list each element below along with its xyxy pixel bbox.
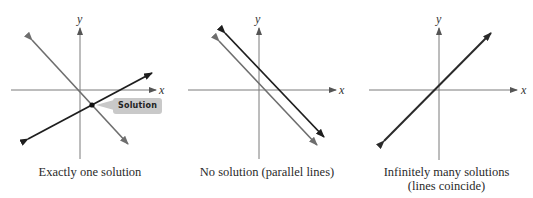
y-axis-label: y <box>255 13 260 25</box>
x-axis-label: x <box>159 84 164 96</box>
x-axis-label: x <box>521 84 526 96</box>
line-2-gray <box>219 41 317 145</box>
y-axis-label: y <box>436 13 441 25</box>
caption-infinite-solutions: Infinitely many solutions (lines coincid… <box>360 165 533 193</box>
caption-no-solution: No solution (parallel lines) <box>177 165 357 179</box>
caption-line: No solution (parallel lines) <box>177 165 357 179</box>
caption-one-solution: Exactly one solution <box>0 165 180 179</box>
caption-line-1: Infinitely many solutions <box>360 165 533 179</box>
caption-line-2: (lines coincide) <box>360 179 533 193</box>
panel-no-solution: y x No solution (parallel lines) <box>180 0 360 198</box>
coincident-lines <box>384 33 491 141</box>
y-axis-label: y <box>77 13 82 25</box>
panel-infinite-solutions: y x Infinitely many solutions (lines coi… <box>360 0 533 198</box>
intersection-point <box>89 102 94 107</box>
solution-callout: Solution <box>113 98 162 114</box>
panel-one-solution: y x Solution Exactly one solution <box>0 0 180 198</box>
caption-line: Exactly one solution <box>0 165 180 179</box>
line-1-dark <box>225 33 324 137</box>
x-axis-label: x <box>339 84 344 96</box>
